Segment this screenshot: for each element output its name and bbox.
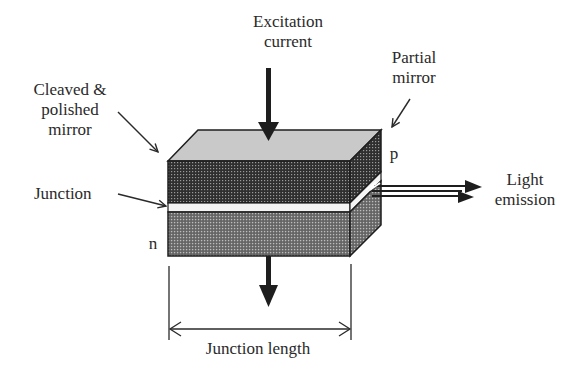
output-current-arrow (259, 256, 278, 307)
cleaved-label-line-1: Cleaved & (20, 80, 120, 100)
excitation-label-line-1: Excitation (248, 12, 328, 32)
cleaved-label-line-2: polished (20, 100, 120, 120)
p-layer (168, 161, 350, 203)
n-layer (168, 212, 350, 256)
light-label-line-1: Light (484, 170, 566, 190)
light-emission-label: Light emission (484, 170, 566, 210)
cleaved-label-line-3: mirror (20, 120, 120, 140)
excitation-label-line-2: current (248, 32, 328, 52)
cleaved-mirror-pointer (118, 112, 158, 152)
junction-band (168, 203, 350, 212)
light-label-line-2: emission (484, 190, 566, 210)
junction-length-label: Junction length (178, 339, 338, 359)
cleaved-mirror-label: Cleaved & polished mirror (20, 80, 120, 140)
n-region-label: n (146, 234, 160, 254)
top-face (168, 130, 381, 161)
p-region-label: p (386, 144, 402, 164)
partial-label-line-1: Partial (384, 48, 444, 68)
partial-mirror-pointer (392, 99, 410, 127)
junction-label: Junction (34, 184, 114, 204)
laser-diode-diagram: Excitation current Cleaved & polished mi… (0, 0, 582, 375)
junction-pointer (118, 194, 166, 206)
excitation-current-label: Excitation current (248, 12, 328, 52)
partial-label-line-2: mirror (384, 68, 444, 88)
partial-mirror-label: Partial mirror (384, 48, 444, 88)
junction-length-dimension (169, 264, 351, 340)
light-emission-arrows (366, 180, 482, 203)
